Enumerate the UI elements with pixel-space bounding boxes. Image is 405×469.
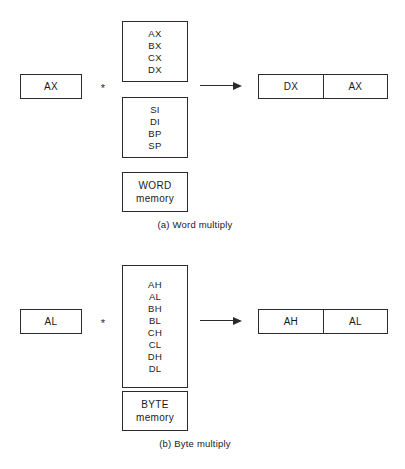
memory-line: memory: [136, 411, 174, 424]
word-pointer-register-list-box: SI DI BP SP: [122, 97, 188, 158]
register-line: BP: [148, 128, 161, 140]
register-line: AL: [149, 291, 161, 303]
register-line: CX: [148, 52, 162, 64]
byte-result-low-cell: AL: [324, 310, 387, 333]
byte-result-high-cell: AH: [259, 310, 324, 333]
register-line: BH: [148, 303, 162, 315]
register-line: DX: [148, 64, 162, 76]
memory-line: BYTE: [141, 398, 168, 411]
byte-result-arrow: [200, 316, 242, 326]
word-result-arrow: [200, 81, 242, 91]
byte-operator-asterisk: *: [97, 318, 109, 329]
register-line: SI: [150, 104, 160, 116]
word-result-box: DX AX: [258, 74, 388, 99]
register-line: SP: [148, 140, 161, 152]
byte-memory-box: BYTE memory: [122, 391, 188, 431]
register-line: AH: [148, 279, 162, 291]
byte-register-list-box: AH AL BH BL CH CL DH DL: [122, 265, 188, 388]
memory-line: memory: [136, 192, 174, 205]
byte-left-operand-box: AL: [20, 309, 82, 334]
word-left-operand-label: AX: [44, 81, 58, 93]
register-line: BL: [149, 315, 161, 327]
register-line: DH: [148, 351, 162, 363]
word-memory-box: WORD memory: [122, 172, 188, 212]
arrow-head-icon: [233, 82, 242, 90]
byte-result-box: AH AL: [258, 309, 388, 334]
register-line: DL: [149, 363, 162, 375]
register-line: DI: [150, 116, 160, 128]
word-register-list-box: AX BX CX DX: [122, 21, 188, 82]
byte-left-operand-label: AL: [45, 316, 58, 328]
arrow-shaft: [200, 320, 234, 321]
word-result-low-cell: AX: [324, 75, 387, 98]
word-operator-asterisk: *: [97, 83, 109, 94]
register-line: CH: [148, 327, 162, 339]
word-result-high-cell: DX: [259, 75, 324, 98]
register-line: AX: [148, 28, 161, 40]
byte-multiply-caption: (b) Byte multiply: [0, 438, 390, 449]
word-multiply-caption: (a) Word multiply: [0, 219, 390, 230]
multiply-operand-figure: AX * AX BX CX DX SI DI BP SP WORD memory…: [0, 0, 405, 469]
memory-line: WORD: [139, 179, 172, 192]
register-line: BX: [148, 40, 161, 52]
arrow-head-icon: [233, 317, 242, 325]
arrow-shaft: [200, 85, 234, 86]
register-line: CL: [149, 339, 162, 351]
word-left-operand-box: AX: [20, 74, 82, 99]
